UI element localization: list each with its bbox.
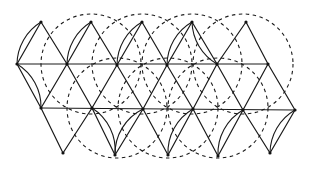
lattice-edge	[193, 109, 218, 156]
lattice-edge	[41, 64, 67, 108]
lattice-vertex	[39, 20, 42, 23]
lattice-vertex	[113, 153, 116, 156]
lattice-vertex	[15, 62, 18, 65]
lattice-edge	[117, 65, 143, 109]
lattice-edge	[142, 22, 167, 65]
lattice-edge	[17, 22, 41, 64]
lattice-edge	[167, 22, 192, 65]
triangular-lattice-diagram	[0, 0, 312, 173]
solid-arcs-layer	[17, 22, 295, 156]
lattice-edges-layer	[17, 22, 295, 156]
dashed-circles-layer	[41, 14, 293, 158]
lattice-edge	[217, 22, 246, 64]
lattice-vertex	[115, 63, 118, 66]
lattice-edge	[91, 22, 117, 65]
lattice-vertex	[266, 62, 269, 65]
lattice-svg	[0, 0, 312, 173]
lattice-edge	[41, 108, 63, 153]
lattice-vertex	[293, 108, 296, 111]
lattice-vertex	[39, 106, 42, 109]
lattice-vertex	[215, 62, 218, 65]
lattice-edge	[217, 64, 243, 110]
lattice-edge	[117, 22, 142, 65]
lattice-vertex	[141, 107, 144, 110]
lattice-edge	[67, 64, 92, 108]
lattice-edge	[41, 22, 67, 64]
lattice-edge	[193, 64, 217, 109]
lattice-edge	[17, 64, 41, 108]
lattice-vertex	[140, 20, 143, 23]
lattice-edge	[192, 22, 217, 64]
lattice-vertex	[241, 108, 244, 111]
lattice-edge	[92, 65, 117, 108]
lattice-edge	[115, 109, 143, 155]
lattice-vertex	[65, 62, 68, 65]
lattice-edge	[243, 64, 268, 110]
lattice-edge	[246, 22, 268, 64]
lattice-edge	[167, 65, 193, 109]
lattice-vertex	[90, 106, 93, 109]
lattice-edge	[270, 110, 295, 153]
lattice-edge	[243, 110, 270, 153]
lattice-vertex	[89, 20, 92, 23]
lattice-vertex	[190, 20, 193, 23]
lattice-vertex	[165, 63, 168, 66]
lattice-edge	[143, 109, 168, 155]
lattice-edge	[268, 64, 295, 110]
lattice-edge	[67, 22, 91, 64]
lattice-vertex	[191, 107, 194, 110]
lattice-vertex	[216, 154, 219, 157]
lattice-vertex	[61, 151, 64, 154]
lattice-edge	[143, 65, 167, 109]
lattice-vertex	[268, 151, 271, 154]
lattice-vertex	[244, 20, 247, 23]
lattice-vertex	[166, 153, 169, 156]
